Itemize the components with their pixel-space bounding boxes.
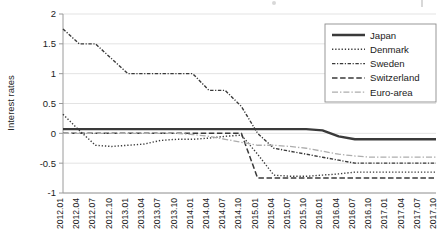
x-tick-label: 2012.07 xyxy=(87,198,97,229)
x-tick-label: 2016.07 xyxy=(347,198,357,229)
x-tick-label: 2017.07 xyxy=(412,198,422,229)
y-tick-label: 2 xyxy=(51,8,56,19)
y-tick-label: 1 xyxy=(51,68,56,79)
legend-label-denmark[interactable]: Denmark xyxy=(370,44,409,55)
x-tick-label: 2013.10 xyxy=(169,198,179,229)
x-tick-label: 2012.04 xyxy=(71,198,81,229)
x-tick-label: 2013.01 xyxy=(120,198,130,229)
x-tick-label: 2016.01 xyxy=(314,198,324,229)
legend-label-switzerland[interactable]: Switzerland xyxy=(370,72,420,83)
x-tick-label: 2017.01 xyxy=(379,198,389,229)
x-tick-label: 2015.01 xyxy=(250,198,260,229)
chart-legend[interactable]: JapanDenmarkSwedenSwitzerlandEuro-area xyxy=(325,24,436,102)
x-tick-label: 2013.04 xyxy=(136,198,146,229)
x-tick-label: 2012.01 xyxy=(55,198,65,229)
x-tick-label: 2016.10 xyxy=(363,198,373,229)
x-tick-label: 2014.04 xyxy=(201,198,211,229)
x-tick-label: 2015.04 xyxy=(266,198,276,229)
legend-label-euro-area[interactable]: Euro-area xyxy=(370,87,413,98)
x-tick-label: 2016.04 xyxy=(331,198,341,229)
y-axis-title: Interest rates xyxy=(5,75,16,131)
y-tick-label: 1.5 xyxy=(43,38,56,49)
interest-rates-line-chart: 21.510.50-0.5-1 2012.012012.042012.07201… xyxy=(0,0,442,248)
legend-label-sweden[interactable]: Sweden xyxy=(370,58,405,69)
x-tick-label: 2014.10 xyxy=(233,198,243,229)
y-tick-label: -1 xyxy=(48,187,56,198)
x-tick-label: 2017.04 xyxy=(396,198,406,229)
x-tick-label: 2014.01 xyxy=(185,198,195,229)
y-tick-label: 0 xyxy=(51,128,56,139)
y-tick-label: 0.5 xyxy=(43,98,56,109)
x-tick-label: 2014.07 xyxy=(217,198,227,229)
x-tick-label: 2012.10 xyxy=(104,198,114,229)
page-artifact-mark xyxy=(421,0,423,7)
x-tick-label: 2015.07 xyxy=(282,198,292,229)
x-tick-label: 2017.10 xyxy=(428,198,438,229)
y-tick-label: -0.5 xyxy=(40,158,56,169)
page-artifact-speck xyxy=(272,1,276,5)
x-tick-label: 2015.10 xyxy=(298,198,308,229)
x-tick-label: 2013.07 xyxy=(152,198,162,229)
legend-label-japan[interactable]: Japan xyxy=(370,30,396,41)
